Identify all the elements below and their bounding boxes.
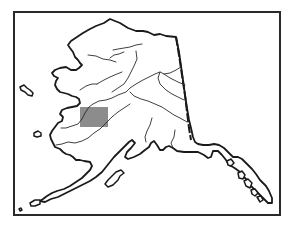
kodiak-island	[105, 170, 124, 187]
panhandle-island	[227, 159, 234, 166]
copper-river	[171, 130, 175, 148]
highlighted-region[interactable]	[80, 107, 108, 127]
panhandle-island	[257, 196, 263, 202]
panhandle-island	[251, 189, 258, 196]
nunivak-island	[34, 131, 41, 137]
mainland-coastline	[40, 19, 272, 203]
noatak-river	[113, 44, 142, 50]
map-canvas	[0, 0, 295, 227]
susitna-river	[145, 118, 152, 142]
st-lawrence-island	[20, 85, 33, 96]
panhandle-island	[244, 179, 252, 188]
panhandle-island	[238, 171, 245, 179]
alaska-map	[0, 0, 295, 227]
map-frame	[14, 12, 280, 215]
canada-border	[176, 37, 191, 140]
upper-yukon-branch	[158, 72, 184, 100]
porcupine-river	[164, 67, 181, 74]
aleutian-island-small	[19, 208, 22, 211]
kobuk-river	[88, 55, 116, 62]
noatak-branch	[110, 52, 124, 58]
northern-tributary	[97, 72, 122, 84]
aleutian-island	[30, 200, 40, 206]
western-tributary	[80, 84, 97, 90]
tanana-river	[130, 92, 187, 122]
